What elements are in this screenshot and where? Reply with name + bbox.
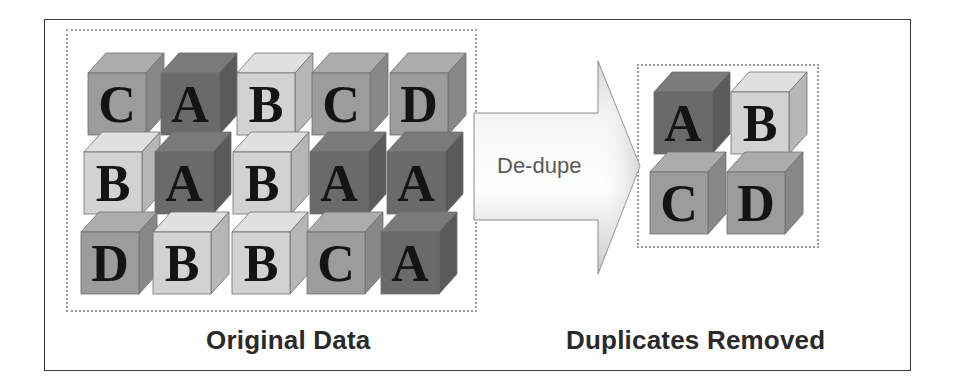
cube-b: B <box>232 212 308 294</box>
cube-d: D <box>390 53 466 135</box>
cube-letter: B <box>249 76 284 133</box>
dedupe-diagram: De-dupe CABCDBABAADBBCAABCD Original Dat… <box>0 0 953 392</box>
cube-letter: D <box>91 235 129 292</box>
duplicates-removed-label: Duplicates Removed <box>566 325 825 356</box>
cube-b: B <box>233 132 309 214</box>
cube-b: B <box>84 132 160 214</box>
cube-a: A <box>381 212 457 294</box>
cube-letter: C <box>660 175 698 232</box>
cube-letter: B <box>165 235 200 292</box>
cube-letter: D <box>737 175 775 232</box>
original-data-label: Original Data <box>206 325 370 356</box>
cube-letter: C <box>317 235 355 292</box>
cube-letter: A <box>171 76 209 133</box>
cube-letter: A <box>664 95 702 152</box>
cube-letter: B <box>244 235 279 292</box>
cube-b: B <box>731 72 807 154</box>
cube-b: B <box>153 212 229 294</box>
cube-a: A <box>161 53 237 135</box>
cube-letter: B <box>245 155 280 212</box>
cube-d: D <box>81 212 157 294</box>
cube-letter: A <box>391 235 429 292</box>
cube-c: C <box>88 53 164 135</box>
cube-b: B <box>237 53 313 135</box>
cube-a: A <box>155 132 231 214</box>
cube-letter: B <box>743 95 778 152</box>
cube-letter: A <box>397 155 435 212</box>
cube-c: C <box>650 152 726 234</box>
cube-letter: C <box>322 76 360 133</box>
cube-letter: C <box>98 76 136 133</box>
cube-letter: A <box>320 155 358 212</box>
cube-a: A <box>654 72 730 154</box>
cube-letter: D <box>400 76 438 133</box>
cube-letter: A <box>165 155 203 212</box>
cube-c: C <box>307 212 383 294</box>
cube-a: A <box>310 132 386 214</box>
cube-c: C <box>312 53 388 135</box>
cube-letter: B <box>96 155 131 212</box>
cube-a: A <box>387 132 463 214</box>
cube-d: D <box>727 152 803 234</box>
